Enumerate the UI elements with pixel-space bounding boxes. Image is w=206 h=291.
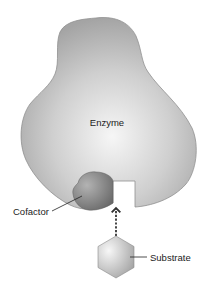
substrate-hexagon xyxy=(98,236,134,278)
substrate-label: Substrate xyxy=(150,252,191,263)
cofactor-label: Cofactor xyxy=(13,206,49,217)
enzyme-cofactor-diagram: Enzyme Cofactor Substrate xyxy=(0,0,206,291)
enzyme-label: Enzyme xyxy=(90,117,124,128)
